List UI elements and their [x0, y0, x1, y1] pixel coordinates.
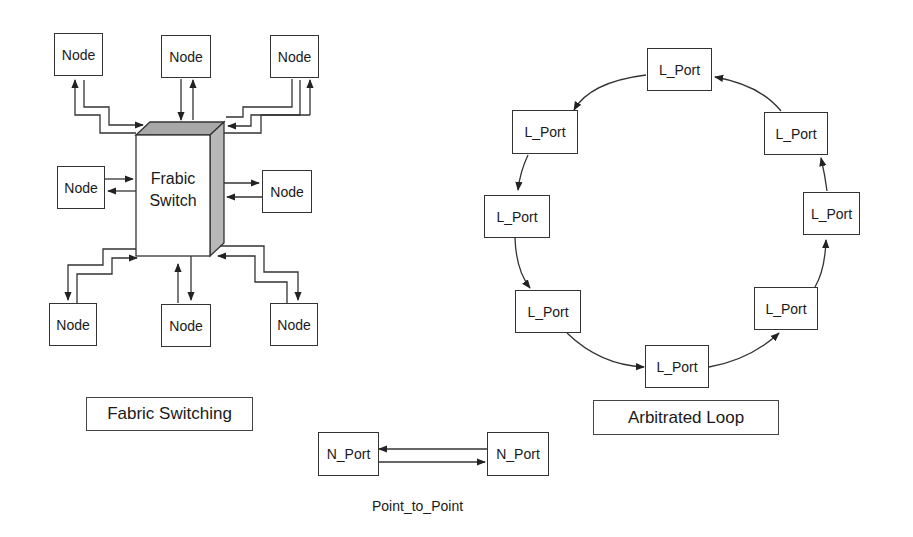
diagram-lines [0, 0, 913, 537]
node-bottom-right: Node [270, 303, 318, 346]
loop-port-lower-left: L_Port [515, 290, 581, 333]
node-top-right: Node [270, 35, 319, 78]
loop-port-right: L_Port [803, 192, 860, 235]
loop-port-top: L_Port [647, 48, 712, 91]
node-bottom-left: Node [49, 303, 97, 346]
node-right: Node [262, 170, 312, 213]
node-top-left: Node [54, 33, 103, 76]
fabric-switching-title: Fabric Switching [86, 397, 253, 431]
arbitrated-loop-title: Arbitrated Loop [593, 400, 779, 435]
loop-port-lower-right: L_Port [754, 287, 818, 330]
n-port-left: N_Port [318, 432, 379, 476]
switch-label-line2: Switch [136, 190, 210, 212]
node-left: Node [57, 166, 105, 209]
fabric-switch: Frabic Switch [136, 168, 210, 212]
node-bottom-center: Node [161, 304, 211, 347]
point-to-point-title: Point_to_Point [372, 498, 463, 514]
switch-label-line1: Frabic [136, 168, 210, 190]
node-top-center: Node [161, 35, 211, 78]
n-port-right: N_Port [487, 432, 549, 476]
loop-port-upper-right: L_Port [764, 112, 828, 155]
loop-port-bottom: L_Port [645, 345, 709, 388]
loop-port-upper-left: L_Port [512, 110, 578, 154]
loop-port-left: L_Port [484, 195, 550, 238]
